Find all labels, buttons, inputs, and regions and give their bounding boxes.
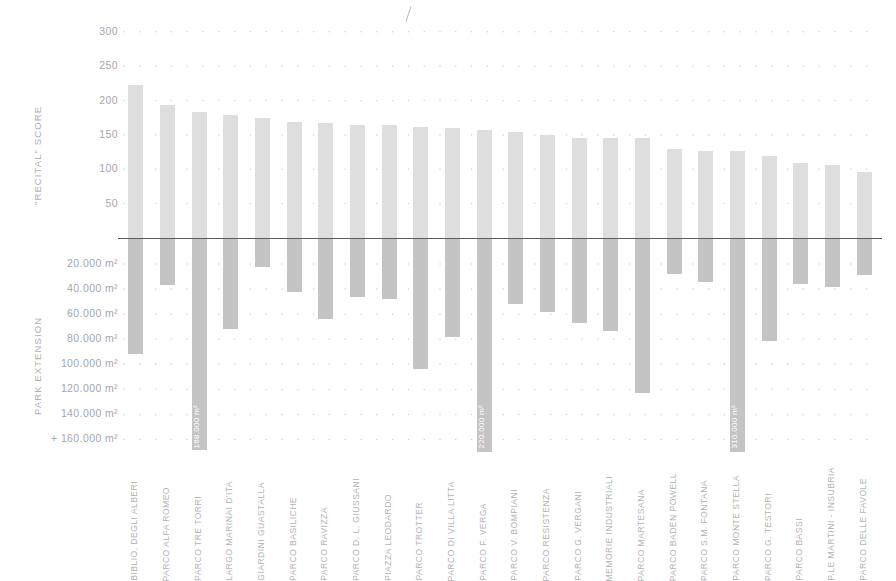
extension-bar[interactable] bbox=[160, 239, 175, 285]
extension-bar[interactable] bbox=[255, 239, 270, 267]
bottom-tick-label: 100.000 m² bbox=[26, 358, 118, 369]
score-bar[interactable] bbox=[445, 128, 460, 238]
bottom-tick-label: 120.000 m² bbox=[26, 383, 118, 394]
extension-bar[interactable] bbox=[825, 239, 840, 287]
category-label: PARCO F. VERGA bbox=[478, 503, 488, 581]
extension-bar[interactable] bbox=[508, 239, 523, 304]
extension-bar[interactable] bbox=[413, 239, 428, 369]
category-label: PARCO MARTESANA bbox=[636, 489, 646, 581]
category-label: PARCO BASILICHE bbox=[288, 497, 298, 581]
bottom-tick-label: 80.000 m² bbox=[26, 333, 118, 344]
extension-bar[interactable] bbox=[857, 239, 872, 275]
extension-bar[interactable] bbox=[318, 239, 333, 319]
score-bar[interactable] bbox=[793, 163, 808, 238]
top-tick-label: 250 bbox=[60, 60, 118, 71]
category-label: PARCO RESISTENZA bbox=[541, 488, 551, 581]
bottom-tick-label: + 160.000 m² bbox=[26, 433, 118, 444]
score-bar[interactable] bbox=[318, 123, 333, 238]
score-bars bbox=[120, 18, 880, 238]
bottom-tick-label: 60.000 m² bbox=[26, 308, 118, 319]
category-label: PARCO ALFA ROMEO bbox=[161, 487, 171, 581]
score-bar[interactable] bbox=[508, 132, 523, 238]
extension-bar[interactable] bbox=[477, 239, 492, 452]
extension-bar[interactable] bbox=[287, 239, 302, 292]
category-label: BIBLIO. DEGLI ALBERI bbox=[129, 481, 139, 581]
category-label: LARGO MARINAI D'ITA bbox=[224, 481, 234, 581]
score-bar[interactable] bbox=[635, 138, 650, 238]
extension-bar[interactable] bbox=[192, 239, 207, 450]
category-label: PARCO MONTE STELLA bbox=[731, 475, 741, 581]
extension-bar[interactable] bbox=[730, 239, 745, 452]
extension-bar[interactable] bbox=[540, 239, 555, 312]
extension-bars: 168.000 m²220.000 m²310.000 m² bbox=[120, 239, 880, 452]
chart-container: "RECITAL" SCORE PARK EXTENSION 300250200… bbox=[0, 0, 896, 581]
top-axis-title: "RECITAL" SCORE bbox=[32, 106, 43, 205]
category-label: PARCO D. L. GIUSSANI bbox=[351, 478, 361, 581]
extension-bar[interactable] bbox=[667, 239, 682, 274]
score-bar[interactable] bbox=[128, 85, 143, 238]
score-bar[interactable] bbox=[477, 130, 492, 238]
score-bar[interactable] bbox=[255, 118, 270, 238]
score-bar[interactable] bbox=[572, 138, 587, 238]
category-label: PARCO S.M. FONTANA bbox=[699, 480, 709, 581]
extension-bar[interactable] bbox=[223, 239, 238, 329]
bottom-tick-label: 140.000 m² bbox=[26, 408, 118, 419]
score-bar[interactable] bbox=[540, 135, 555, 238]
category-label: PARCO V. BOMPIANI bbox=[509, 489, 519, 581]
category-label: PARCO BADEN POWELL bbox=[668, 473, 678, 581]
extension-bar[interactable] bbox=[382, 239, 397, 299]
top-tick-label: 300 bbox=[60, 26, 118, 37]
top-tick-label: 100 bbox=[60, 163, 118, 174]
category-label: PARCO DELLE FAVOLE bbox=[858, 478, 868, 581]
extension-bar[interactable] bbox=[445, 239, 460, 337]
score-bar[interactable] bbox=[382, 125, 397, 238]
extension-bar[interactable] bbox=[762, 239, 777, 341]
top-tick-label: 200 bbox=[60, 95, 118, 106]
score-bar[interactable] bbox=[603, 138, 618, 238]
extension-bar[interactable] bbox=[635, 239, 650, 393]
score-bar[interactable] bbox=[413, 127, 428, 238]
bottom-tick-label: 40.000 m² bbox=[26, 283, 118, 294]
category-label: MEMORIE INDUSTRIALI bbox=[604, 476, 614, 581]
category-label: PARCO BASSI bbox=[794, 518, 804, 581]
category-label: PARCO TRE TORRI bbox=[193, 496, 203, 581]
score-bar[interactable] bbox=[762, 156, 777, 239]
zero-baseline bbox=[118, 238, 882, 239]
extension-bar[interactable] bbox=[793, 239, 808, 284]
top-tick-label: 150 bbox=[60, 129, 118, 140]
extension-bar[interactable] bbox=[350, 239, 365, 297]
score-bar[interactable] bbox=[730, 151, 745, 238]
score-bar[interactable] bbox=[857, 172, 872, 238]
category-label: PARCO G. VERGANI bbox=[573, 491, 583, 581]
category-label: PIAZZA LEODARDO bbox=[383, 494, 393, 581]
extension-bar[interactable] bbox=[128, 239, 143, 354]
category-label: PARCO G. TESTORI bbox=[763, 493, 773, 581]
score-bar[interactable] bbox=[160, 105, 175, 238]
score-bar[interactable] bbox=[698, 151, 713, 238]
extension-bar[interactable] bbox=[572, 239, 587, 323]
category-label: P.LE MARTINI - INSUBRIA bbox=[826, 467, 836, 581]
score-bar[interactable] bbox=[667, 149, 682, 238]
score-bar[interactable] bbox=[287, 122, 302, 238]
score-bar[interactable] bbox=[223, 115, 238, 238]
category-label: PARCO DI VILLA LITTA bbox=[446, 481, 456, 581]
bottom-tick-label: 20.000 m² bbox=[26, 258, 118, 269]
extension-bar[interactable] bbox=[698, 239, 713, 282]
category-label: PARCO RAVIZZA bbox=[319, 507, 329, 581]
extension-bar[interactable] bbox=[603, 239, 618, 331]
score-bar[interactable] bbox=[350, 125, 365, 238]
score-bar[interactable] bbox=[825, 165, 840, 238]
category-label: PARCO TROTTER bbox=[414, 502, 424, 581]
top-tick-label: 50 bbox=[60, 198, 118, 209]
category-label: GIARDINI GUASTALLA bbox=[256, 482, 266, 581]
score-bar[interactable] bbox=[192, 112, 207, 239]
category-labels: BIBLIO. DEGLI ALBERIPARCO ALFA ROMEOPARC… bbox=[120, 456, 880, 581]
